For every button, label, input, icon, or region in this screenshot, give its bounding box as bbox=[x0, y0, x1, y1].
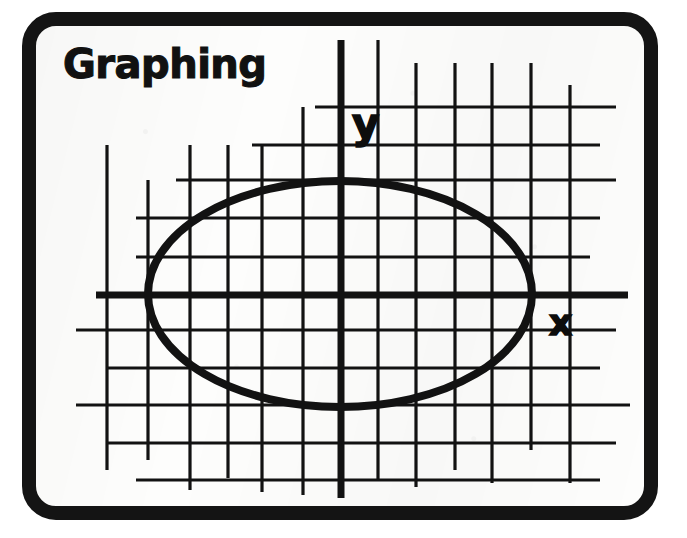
page-title: Graphing bbox=[63, 44, 266, 84]
x-axis-label: x bbox=[549, 305, 572, 341]
card-frame bbox=[22, 12, 658, 520]
graphing-illustration: Graphing y x bbox=[0, 0, 687, 538]
y-axis-label: y bbox=[352, 103, 379, 145]
paper-texture bbox=[36, 26, 644, 506]
